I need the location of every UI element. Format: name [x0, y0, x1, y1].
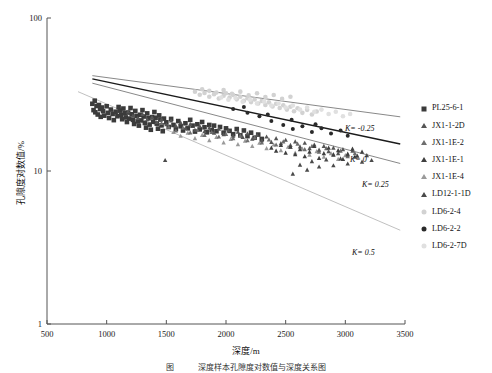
figure-root: 500100015002000250030003500 110100 K= -0…	[0, 0, 492, 373]
trendline	[92, 76, 400, 117]
legend-marker-triangle-icon	[418, 189, 429, 200]
legend-label: JX1-1E-1	[432, 156, 464, 164]
legend-label: LD12-1-1D	[432, 190, 471, 198]
legend-label: JX1-1-2D	[432, 122, 465, 130]
x-tick-label: 3000	[337, 329, 354, 339]
legend-label: LD6-2-7D	[432, 242, 467, 250]
legend-marker-triangle-icon	[418, 120, 429, 131]
legend-item-ld6-2-4[interactable]: LD6-2-4	[418, 203, 492, 220]
legend-marker-triangle-icon	[418, 155, 429, 166]
data-points-group	[90, 87, 374, 176]
x-tick-label: 1000	[98, 329, 115, 339]
series-ld12-1-1d	[163, 153, 374, 176]
legend-marker-square-icon	[418, 103, 429, 114]
legend-item-ld12-1-1d[interactable]: LD12-1-1D	[418, 186, 492, 203]
legend-marker-triangle-icon	[418, 172, 429, 183]
y-tick-label: 100	[12, 13, 42, 23]
x-tick-label: 2500	[277, 329, 294, 339]
legend-label: LD6-2-2	[432, 225, 461, 233]
legend-marker-circle-icon	[418, 223, 429, 234]
x-tick-label: 500	[41, 329, 54, 339]
legend-marker-triangle-icon	[418, 137, 429, 148]
x-axis-title: 深度/m	[0, 344, 492, 357]
legend-item-ld6-2-7d[interactable]: LD6-2-7D	[418, 238, 492, 255]
legend-item-pl25-6-1[interactable]: PL25-6-1	[418, 100, 492, 117]
legend-marker-circle-icon	[418, 241, 429, 252]
legend-item-jx1-1e-2[interactable]: JX1-1E-2	[418, 134, 492, 151]
trendline-label: K= 0.5	[352, 248, 375, 257]
figure-caption: 图 深度样本孔隙度对数值与深度关系图	[0, 361, 492, 372]
axes-lines	[47, 18, 405, 324]
legend-item-ld6-2-2[interactable]: LD6-2-2	[418, 220, 492, 237]
legend-item-jx1-1-2d[interactable]: JX1-1-2D	[418, 117, 492, 134]
legend-label: PL25-6-1	[432, 104, 463, 112]
legend: PL25-6-1JX1-1-2DJX1-1E-2JX1-1E-1JX1-1E-4…	[418, 100, 492, 255]
x-tick-label: 1500	[158, 329, 175, 339]
x-tick-label: 3500	[397, 329, 414, 339]
legend-label: JX1-1E-4	[432, 173, 464, 181]
legend-marker-circle-icon	[418, 206, 429, 217]
y-axis-title: 孔隙度对数值/%	[14, 141, 27, 205]
trendline-label: K= 0.25	[362, 180, 389, 189]
trendline-label: K= -0.25	[345, 124, 374, 133]
legend-item-jx1-1e-4[interactable]: JX1-1E-4	[418, 169, 492, 186]
trendline-label: K= 0	[350, 155, 367, 164]
legend-label: JX1-1E-2	[432, 139, 464, 147]
legend-item-jx1-1e-1[interactable]: JX1-1E-1	[418, 152, 492, 169]
trendlines-group	[78, 76, 400, 231]
y-tick-label: 1	[12, 319, 42, 329]
legend-label: LD6-2-4	[432, 208, 461, 216]
x-tick-label: 2000	[218, 329, 235, 339]
